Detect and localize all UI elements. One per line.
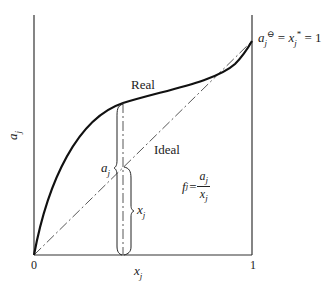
formula-den-sub: j [205, 194, 208, 204]
xj-bracket-label: xj [137, 203, 145, 220]
endpoint-eq2: = 1 [301, 30, 321, 45]
bracket-a-sub: j [108, 168, 111, 178]
x-tick-0: 0 [31, 259, 37, 271]
formula-eq: = [189, 180, 196, 193]
endpoint-annotation: aj⊖ = xj* = 1 [258, 30, 322, 48]
real-label: Real [131, 78, 155, 91]
formula-f-sub: j [186, 182, 189, 191]
aj-bracket [114, 104, 123, 255]
bracket-x-sub: j [143, 210, 146, 220]
endpoint-a-sub: j [265, 38, 268, 48]
ideal-label: Ideal [154, 143, 180, 156]
formula-numerator: aj [197, 170, 210, 187]
standard-state-symbol: ⊖ [267, 29, 275, 39]
y-axis-label: aj [6, 131, 23, 140]
y-axis-sub: j [13, 131, 23, 134]
formula-num-sub: j [205, 175, 208, 185]
endpoint-x-sub: j [294, 38, 297, 48]
x-axis-label: xj [134, 264, 142, 281]
endpoint-eq1: = [275, 30, 289, 45]
y-axis-var: a [5, 134, 20, 141]
formula-fraction: aj xj [197, 170, 210, 204]
formula-denominator: xj [198, 187, 210, 203]
xj-bracket [124, 167, 134, 255]
aj-bracket-label: aj [101, 161, 110, 178]
x-axis-sub: j [140, 271, 143, 281]
x-tick-1: 1 [250, 259, 256, 271]
activity-coefficient-formula: fj= aj xj [182, 170, 210, 204]
